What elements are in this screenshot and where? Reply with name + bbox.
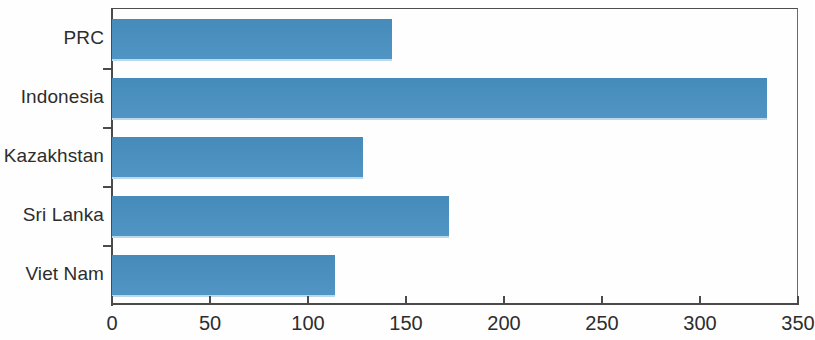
x-axis-tick-100 <box>307 296 309 305</box>
category-axis-labels: PRC Indonesia Kazakhstan Sri Lanka Viet … <box>0 8 104 304</box>
x-axis-label-100: 100 <box>291 311 324 335</box>
x-axis-tick-200 <box>503 296 505 305</box>
x-axis-label-200: 200 <box>487 311 520 335</box>
x-axis-label-300: 300 <box>683 311 716 335</box>
bar-prc-edge <box>112 59 392 61</box>
bar-viet-nam-edge <box>112 295 335 297</box>
x-axis-tick-350 <box>797 296 799 305</box>
x-axis-label-250: 250 <box>585 311 618 335</box>
bar-indonesia[interactable] <box>112 78 767 118</box>
bar-sri-lanka-edge <box>112 236 449 238</box>
bar-kazakhstan[interactable] <box>112 137 363 177</box>
x-axis-label-50: 50 <box>199 311 221 335</box>
category-label-viet-nam: Viet Nam <box>0 263 104 285</box>
bars-layer <box>112 8 798 304</box>
x-axis-tick-150 <box>405 296 407 305</box>
bar-indonesia-edge <box>112 118 767 120</box>
x-axis-label-0: 0 <box>106 311 117 335</box>
x-axis-label-150: 150 <box>389 311 422 335</box>
x-axis-tick-50 <box>209 296 211 305</box>
x-axis-tick-0 <box>111 296 113 305</box>
category-label-indonesia: Indonesia <box>0 86 104 108</box>
x-axis-label-350: 350 <box>781 311 814 335</box>
category-label-kazakhstan: Kazakhstan <box>0 145 104 167</box>
category-label-sri-lanka: Sri Lanka <box>0 204 104 226</box>
category-label-prc: PRC <box>0 27 104 49</box>
bar-kazakhstan-edge <box>112 177 363 179</box>
bar-prc[interactable] <box>112 19 392 59</box>
x-axis-tick-250 <box>601 296 603 305</box>
x-axis-tick-300 <box>699 296 701 305</box>
bar-sri-lanka[interactable] <box>112 196 449 236</box>
bar-viet-nam[interactable] <box>112 255 335 295</box>
